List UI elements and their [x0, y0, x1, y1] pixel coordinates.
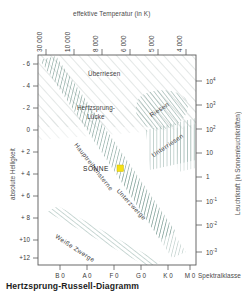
right-tick-5-exp: -1 [213, 197, 217, 202]
hr-diagram-figure: effektive Temperatur (in K) 30 000 10 00… [0, 0, 242, 299]
right-tick-7: 10-3 [206, 248, 217, 256]
left-tick-3: 0 [10, 126, 30, 133]
bottom-tick-3: G 0 [130, 272, 152, 279]
left-tick-6: + 6 [10, 192, 30, 199]
bottom-tick-marks [60, 265, 190, 270]
bottom-tick-2: F 0 [103, 272, 125, 279]
right-tick-7-exp: -3 [213, 248, 217, 253]
right-tick-marks [196, 81, 202, 252]
right-tick-6: 10-2 [206, 221, 217, 229]
right-vertical-hatch [176, 124, 196, 172]
left-tick-4: + 2 [10, 148, 30, 155]
right-tick-2-base: 10 [206, 126, 213, 133]
bottom-tick-4: K 0 [157, 272, 179, 279]
left-tick-0: - 6 [10, 60, 30, 67]
hertzsprung-luecke-line1: Hertzsprung- [68, 104, 124, 113]
right-tick-5-base: 10 [206, 198, 213, 205]
right-tick-0-exp: 4 [213, 77, 216, 82]
top-tick-5: 4 000 [176, 35, 183, 52]
right-tick-5: 10-1 [206, 197, 217, 205]
bottom-tick-1: A 0 [76, 272, 98, 279]
right-tick-1-exp: 3 [213, 101, 216, 106]
right-tick-7-base: 10 [206, 249, 213, 256]
left-tick-2: - 2 [10, 104, 30, 111]
diagram-title: Hertzsprung-Russell-Diagramm [6, 281, 139, 291]
right-tick-1-base: 10 [206, 102, 213, 109]
top-tick-4: 5 000 [148, 35, 155, 52]
right-tick-6-exp: -2 [213, 221, 217, 226]
right-tick-3: 10 [206, 149, 213, 156]
region-label-hertzsprung-luecke: Hertzsprung- Lücke [68, 104, 124, 121]
sun-marker [117, 165, 124, 172]
right-tick-3-base: 10 [206, 149, 213, 156]
right-tick-6-base: 10 [206, 222, 213, 229]
sun-label: SONNE [83, 165, 109, 172]
top-tick-1: 10 000 [64, 32, 71, 52]
right-tick-4: 1 [206, 173, 210, 180]
left-tick-7: + 8 [10, 214, 30, 221]
left-tick-5: + 4 [10, 170, 30, 177]
right-tick-2-exp: 2 [213, 125, 216, 130]
right-tick-0-base: 10 [206, 78, 213, 85]
right-tick-2: 102 [206, 125, 216, 133]
hertzsprung-luecke-line2: Lücke [68, 113, 124, 122]
top-tick-0: 30 000 [36, 32, 43, 52]
left-tick-8: +10 [10, 236, 30, 243]
top-tick-3: 6 000 [120, 35, 127, 52]
right-tick-4-base: 1 [206, 173, 210, 180]
right-tick-0: 104 [206, 77, 216, 85]
bottom-axis-title: Spektralklasse [198, 272, 241, 279]
left-tick-9: +12 [10, 254, 30, 261]
left-tick-1: - 4 [10, 82, 30, 89]
region-label-ueberriesen: Überriesen [88, 70, 120, 77]
top-tick-2: 8 000 [92, 35, 99, 52]
bottom-tick-0: B 0 [49, 272, 71, 279]
right-axis-title: Leuchtkraft (in Sonnenleuchtkräften) [234, 112, 241, 215]
right-tick-1: 103 [206, 101, 216, 109]
top-axis-title: effektive Temperatur (in K) [73, 10, 150, 17]
left-tick-marks [33, 64, 38, 258]
